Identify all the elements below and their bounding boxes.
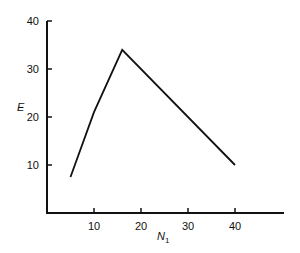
y-tick-label: 20 [27,111,39,123]
x-tick-label: 10 [88,220,100,232]
x-axis-label: N1 [157,230,170,245]
line-chart: 1020304010203040 E N1 [0,0,300,253]
y-axis-label: E [17,101,25,113]
x-tick-label: 30 [182,220,194,232]
series-line [71,50,236,177]
axes: 1020304010203040 [27,15,284,232]
x-axis-label-main: N [157,230,165,242]
y-tick-label: 40 [27,15,39,27]
x-axis-label-subscript: 1 [165,236,170,245]
y-tick-label: 30 [27,63,39,75]
x-tick-label: 20 [135,220,147,232]
data-series [71,50,236,177]
y-tick-label: 10 [27,159,39,171]
x-tick-label: 40 [229,220,241,232]
